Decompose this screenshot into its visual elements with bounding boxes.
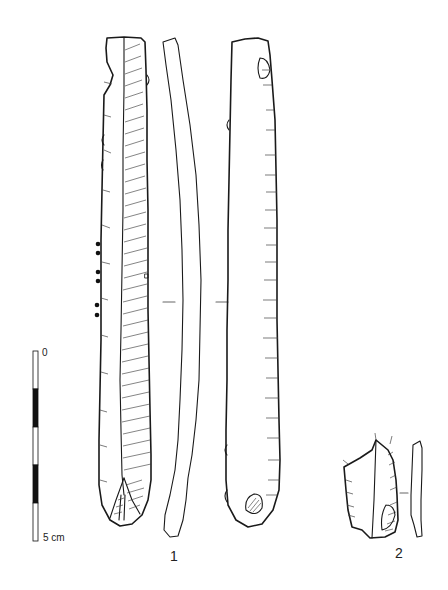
artifact-2-dorsal-view [343, 433, 398, 538]
scale-bar-top-label: 0 [42, 347, 48, 358]
artifact-2-profile-view [400, 441, 422, 537]
artifact-1-ventral-view [225, 38, 280, 527]
artifact-1-profile-view [163, 38, 228, 537]
artifact-2-number: 2 [395, 545, 403, 561]
artifact-drawings [0, 0, 448, 590]
retouch-hatching [114, 44, 151, 514]
artifact-1-number: 1 [170, 548, 178, 564]
scale-bar-bottom-label: 5 cm [43, 532, 65, 543]
scale-bar [33, 351, 38, 541]
artifact-1-dorsal-view [99, 37, 151, 526]
use-wear-dots [95, 242, 101, 318]
